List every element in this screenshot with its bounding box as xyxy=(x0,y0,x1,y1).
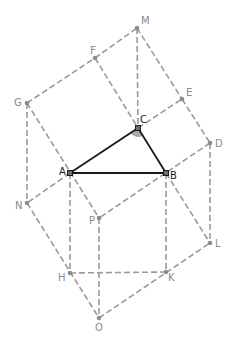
dashed-segment-hk xyxy=(70,272,166,273)
side-ca xyxy=(70,128,138,173)
dashed-segment-fc xyxy=(95,58,138,128)
point-h xyxy=(68,271,73,276)
dashed-segment-ed xyxy=(182,99,210,143)
point-labels: ABCDEFGMNPHKLO xyxy=(14,15,223,333)
triangle-abc xyxy=(70,128,166,173)
dashed-segment-ol xyxy=(99,243,210,318)
point-b xyxy=(164,171,169,176)
label-a: A xyxy=(59,166,66,177)
geometry-diagram: ABCDEFGMNPHKLO xyxy=(0,0,233,344)
point-d xyxy=(208,141,213,146)
dashed-segment-mc xyxy=(137,28,138,128)
point-m xyxy=(135,26,140,31)
dashed-segment-gf xyxy=(27,58,95,103)
diagram-canvas: ABCDEFGMNPHKLO xyxy=(0,0,233,344)
point-a xyxy=(68,171,73,176)
point-o xyxy=(97,316,102,321)
label-m: M xyxy=(141,15,150,26)
point-c xyxy=(136,126,141,131)
label-k: K xyxy=(168,272,175,283)
label-o: O xyxy=(95,322,103,333)
point-l xyxy=(208,241,213,246)
label-p: P xyxy=(89,215,95,226)
point-n xyxy=(25,201,30,206)
label-e: E xyxy=(186,87,192,98)
side-bc xyxy=(138,128,166,173)
label-c: C xyxy=(140,114,147,125)
label-n: N xyxy=(15,200,22,211)
point-p xyxy=(97,216,102,221)
point-e xyxy=(180,97,185,102)
point-f xyxy=(93,56,98,61)
label-g: G xyxy=(14,97,22,108)
label-d: D xyxy=(215,138,223,149)
dashed-segment-bl xyxy=(166,173,210,243)
dashed-segment-an xyxy=(27,173,70,203)
label-h: H xyxy=(58,272,66,283)
dashed-segment-me xyxy=(137,28,182,99)
point-g xyxy=(25,101,30,106)
label-f: F xyxy=(90,45,96,56)
label-l: L xyxy=(215,238,221,249)
dashed-segment-fm xyxy=(95,28,137,58)
label-b: B xyxy=(170,170,177,181)
